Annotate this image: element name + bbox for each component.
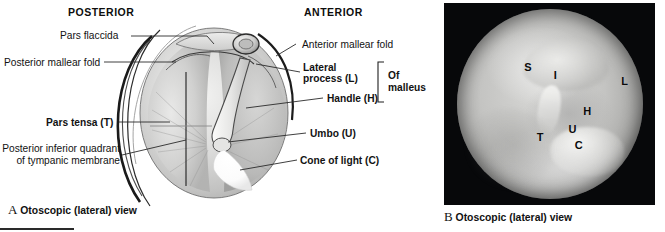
panel-a-illustration: POSTERIOR ANTERIOR <box>0 0 440 232</box>
label-cone-of-light: Cone of light (C) <box>300 155 379 167</box>
caption-text-b: Otoscopic (lateral) view <box>456 212 573 223</box>
caption-panel-a: A Otoscopic (lateral) view <box>8 202 137 218</box>
of-malleus-bracket <box>378 62 384 102</box>
photo-marker-s: S <box>524 62 531 73</box>
umbo-point <box>213 138 231 152</box>
photo-marker-t: T <box>537 132 544 143</box>
label-pars-tensa: Pars tensa (T) <box>46 117 113 129</box>
photo-annulus-shadow <box>464 108 553 192</box>
label-lateral-process: Lateral process (L) <box>303 62 375 85</box>
malleus-lateral-process <box>233 34 259 54</box>
photo-incus-shadow <box>523 39 609 90</box>
label-of-malleus: Of malleus <box>388 70 432 93</box>
photo-marker-c: C <box>575 140 583 151</box>
panel-b-otoscopic-photo: SILHUTC <box>444 3 655 205</box>
photo-marker-l: L <box>621 76 628 87</box>
label-umbo: Umbo (U) <box>310 128 356 140</box>
label-posterior-inferior-quadrant: Posterior inferior quadrant of tympanic … <box>2 143 120 166</box>
label-posterior-mallear-fold: Posterior mallear fold <box>4 57 100 69</box>
photo-marker-u: U <box>568 124 576 135</box>
caption-text-a: Otoscopic (lateral) view <box>20 205 137 216</box>
label-handle: Handle (H) <box>327 93 378 105</box>
photo-cone-of-light <box>550 127 624 176</box>
caption-panel-b: B Otoscopic (lateral) view <box>444 209 572 225</box>
bottom-rule <box>0 228 74 230</box>
photo-marker-h: H <box>583 106 591 117</box>
label-anterior-mallear-fold: Anterior mallear fold <box>302 39 393 51</box>
otoscopic-view-field <box>457 9 643 199</box>
label-pars-flaccida: Pars flaccida <box>60 30 118 42</box>
caption-letter-a: A <box>8 202 17 217</box>
caption-letter-b: B <box>444 209 453 224</box>
photo-marker-i: I <box>554 70 557 81</box>
